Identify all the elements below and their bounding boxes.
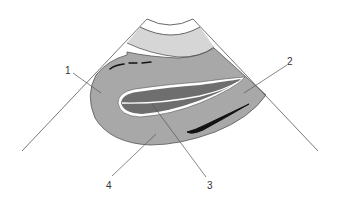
leader-line-2: [244, 65, 287, 93]
label-4: 4: [106, 180, 112, 191]
label-2: 2: [287, 56, 293, 67]
ultrasound-diagram: 1 2 3 4: [0, 0, 337, 221]
label-3: 3: [207, 180, 213, 191]
label-1: 1: [65, 65, 71, 76]
